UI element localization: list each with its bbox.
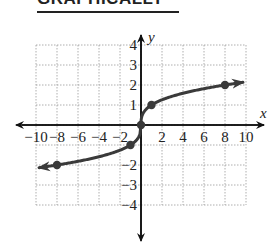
y-tick-label: 3 — [130, 57, 138, 73]
data-point — [137, 121, 145, 129]
y-tick-label: −4 — [121, 197, 137, 213]
x-tick-label: −4 — [91, 129, 107, 145]
y-tick-label: −2 — [121, 157, 137, 173]
cube-root-curve-right — [141, 82, 243, 125]
y-axis-label: y — [146, 29, 155, 45]
data-point — [221, 81, 229, 89]
x-tick-label: 10 — [239, 129, 254, 145]
y-tick-label: 2 — [130, 77, 138, 93]
x-tick-label: 8 — [221, 129, 229, 145]
cube-root-graph: xy−10−8−6−4−22468104321−2−3−4 — [0, 0, 270, 250]
data-point — [126, 141, 134, 149]
x-tick-label: 4 — [179, 129, 187, 145]
y-tick-label: 1 — [130, 97, 138, 113]
x-tick-label: 6 — [200, 129, 208, 145]
y-tick-label: 4 — [130, 37, 138, 53]
x-tick-label: −8 — [49, 129, 65, 145]
x-axis-label: x — [259, 105, 267, 121]
x-tick-label: 2 — [158, 129, 166, 145]
data-point — [53, 161, 61, 169]
y-tick-label: −3 — [121, 177, 137, 193]
x-tick-label: −2 — [112, 129, 128, 145]
data-point — [147, 101, 155, 109]
x-tick-label: −10 — [24, 129, 47, 145]
x-tick-label: −6 — [70, 129, 86, 145]
